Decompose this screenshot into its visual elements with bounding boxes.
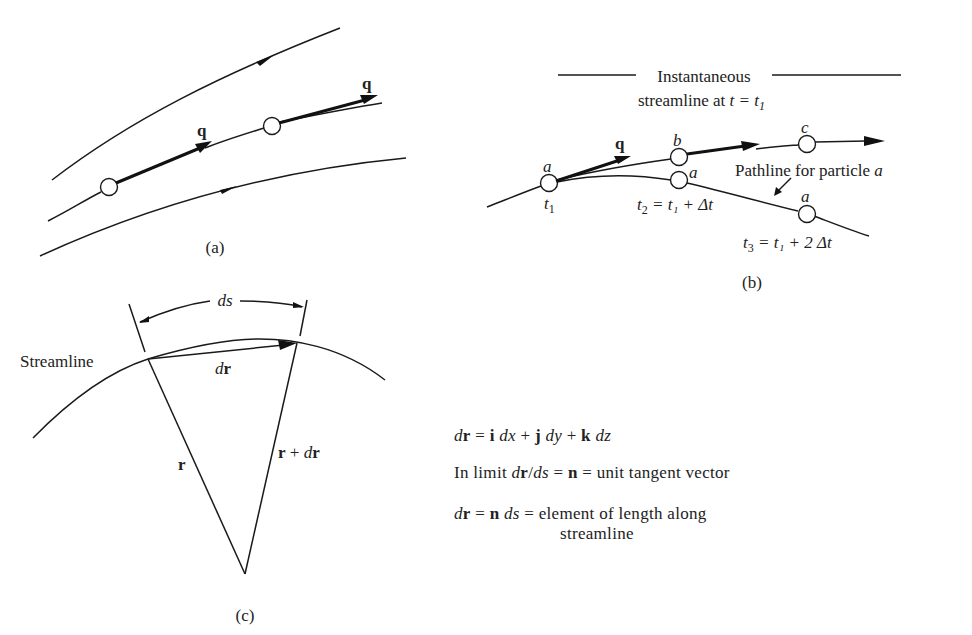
label-particle-c: c [801, 118, 809, 137]
r-plus-dr-label: r + dr [278, 443, 320, 462]
velocity-arrowhead-icon [614, 156, 631, 164]
flow-direction-arrow-icon [220, 186, 237, 194]
label-q: q [197, 121, 207, 140]
particle-b [671, 149, 688, 166]
panel-b: Instantaneous streamline at t = t1 q a b [487, 67, 901, 292]
equation-dr-components: dr = i dx + j dy + k dz [454, 426, 611, 446]
particle-c [799, 136, 816, 153]
flow-direction-arrow-icon [256, 55, 274, 66]
label-particle-b: b [673, 131, 682, 150]
ds-dimension-arc-right [240, 301, 302, 307]
pathline-label: Pathline for particle a [735, 161, 883, 180]
particle-a-t1 [541, 175, 558, 192]
ds-label: ds [217, 291, 233, 310]
caption-a: (a) [206, 238, 225, 257]
caption-b: (b) [742, 273, 762, 292]
instantaneous-streamline [487, 186, 541, 207]
streamline-middle [48, 192, 101, 221]
streamline-middle-seg2 [205, 128, 264, 148]
ds-arrowhead-right-icon [293, 302, 304, 308]
streamline-title-line1: Instantaneous [657, 67, 750, 86]
dr-vector [148, 345, 284, 359]
r-label: r [178, 455, 186, 474]
velocity-vector-q [279, 100, 365, 123]
panel-a: q q (a) [40, 28, 406, 257]
equation-length-element-continuation: streamline [560, 524, 634, 544]
label-particle-a: a [801, 187, 810, 206]
label-particle-a: a [689, 163, 698, 182]
equation-length-element: dr = n ds = element of length along [454, 504, 707, 524]
label-t2: t2 = t₁ + Δt [637, 195, 714, 217]
particle-circle [101, 179, 118, 196]
instantaneous-streamline-seg3 [756, 145, 798, 149]
label-q: q [362, 74, 372, 93]
particle-circle [264, 118, 281, 135]
panel-c: ds Streamline dr r r + dr (c) [20, 291, 385, 625]
position-vector-r [148, 359, 245, 574]
streamline-top [52, 28, 340, 180]
figure-canvas: q q (a) Instantaneous streamline at t = … [0, 0, 972, 635]
streamline-title-line2: streamline at t = t1 [638, 91, 765, 113]
equation-unit-tangent: In limit dr/ds = n = unit tangent vector [454, 463, 730, 483]
label-q: q [615, 134, 625, 153]
label-t3: t3 = t₁ + 2 Δt [743, 233, 833, 255]
velocity-arrowhead-icon [864, 136, 885, 146]
velocity-vector-b [687, 146, 745, 154]
label-t1: t1 [544, 194, 555, 216]
caption-c: (c) [236, 606, 255, 625]
velocity-vector-c [815, 141, 866, 142]
velocity-vector-q [116, 148, 200, 183]
particle-a-t2 [671, 172, 688, 189]
label-particle-a: a [543, 157, 552, 176]
velocity-arrowhead-icon [360, 95, 378, 104]
particle-a-t3 [799, 206, 816, 223]
ds-dimension-arc-left [140, 301, 210, 322]
ds-extension-right [300, 300, 307, 336]
ds-arrowhead-left-icon [139, 316, 149, 323]
streamline-label: Streamline [20, 352, 94, 371]
dr-label: dr [215, 359, 232, 378]
ds-extension-left [129, 304, 145, 352]
